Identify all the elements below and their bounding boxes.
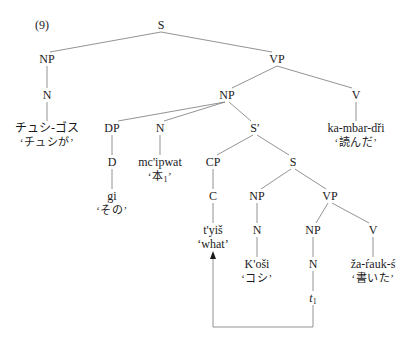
complementizer-gloss: ‘what’ [197,238,228,251]
node-dp: DP [104,122,119,135]
node-n-subject: N [43,89,52,102]
tree-branches [0,0,419,343]
embedded-subject-word: K'oši [245,258,270,271]
object-gloss-text: ‘本 [148,170,164,182]
node-np-object: NP [219,89,234,102]
trace: t1 [309,292,316,308]
node-cp: CP [206,156,221,169]
subject-gloss: ‘チュシが’ [20,136,74,149]
node-n-embedded-object: N [309,258,318,271]
node-vp-embedded: VP [322,190,337,203]
arrowhead-icon [210,251,216,259]
trace-index: 1 [313,297,317,306]
object-word: mc'ipwat [138,156,181,169]
example-number: (9) [35,18,49,33]
determiner-word: gi [107,190,116,203]
node-np-subject: NP [39,53,54,66]
node-s-embedded: S [290,156,297,169]
node-v-embedded: V [369,224,378,237]
object-gloss-close: ’ [168,170,172,182]
embedded-verb-word: ža-ŕauk-ś [351,258,396,271]
node-s-root: S [158,19,165,32]
complementizer-word: t'yiš [203,224,223,237]
node-vp-main: VP [269,53,284,66]
object-gloss: ‘本1’ [148,170,172,186]
node-n-object: N [156,122,165,135]
determiner-gloss: ‘その’ [96,204,127,217]
embedded-verb-gloss: ‘書いた’ [352,272,395,285]
node-c: C [209,190,217,203]
main-verb-word: ka-mbar-dři [327,122,384,135]
node-s-bar: S′ [250,122,259,135]
node-v-main: V [352,89,361,102]
embedded-subject-gloss: ‘コシ’ [241,272,272,285]
node-np-embedded-object: NP [305,224,320,237]
node-d: D [108,156,117,169]
node-np-embedded-subject: NP [249,190,264,203]
main-verb-gloss: ‘読んだ’ [335,136,378,149]
subject-word: チュシ-ゴス [15,122,79,135]
node-n-embedded-subject: N [253,224,262,237]
